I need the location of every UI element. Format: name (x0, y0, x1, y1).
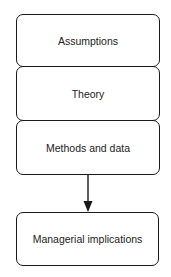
node-label: Managerial implications (33, 233, 143, 245)
arrowhead-icon (84, 201, 93, 212)
node-managerial-implications: Managerial implications (16, 212, 159, 266)
